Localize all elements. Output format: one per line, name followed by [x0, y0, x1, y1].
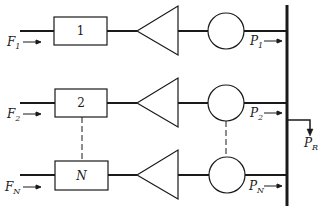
generator-circle-2 — [208, 85, 244, 121]
amplifier-triangle-2 — [137, 78, 178, 127]
output-arrowhead-2 — [277, 111, 282, 115]
generator-circle-n — [209, 157, 245, 193]
output-label-p2: P2 — [250, 107, 263, 122]
amplifier-triangle-n — [137, 150, 178, 199]
diagram-canvas — [0, 0, 322, 212]
input-arrowhead-2 — [36, 112, 41, 116]
unit-box-1-label: 1 — [54, 25, 107, 37]
output-arrowhead — [307, 129, 313, 136]
generator-circle-1 — [208, 13, 244, 49]
input-label-f1: F1 — [7, 36, 20, 51]
output-branch — [287, 120, 310, 132]
output-label-p1: P1 — [250, 35, 263, 50]
unit-box-n-label: N — [55, 170, 108, 182]
output-label-pn: PN — [249, 180, 264, 195]
bus-output-label-pr: PR — [304, 137, 318, 152]
amplifier-triangle-1 — [137, 6, 178, 55]
output-arrowhead-n — [277, 184, 282, 188]
unit-box-2-label: 2 — [55, 97, 107, 109]
input-label-f2: F2 — [7, 108, 20, 123]
input-arrowhead-n — [36, 185, 41, 189]
input-arrowhead-1 — [36, 40, 41, 44]
output-arrowhead-1 — [277, 39, 282, 43]
input-label-fn: FN — [5, 181, 20, 196]
